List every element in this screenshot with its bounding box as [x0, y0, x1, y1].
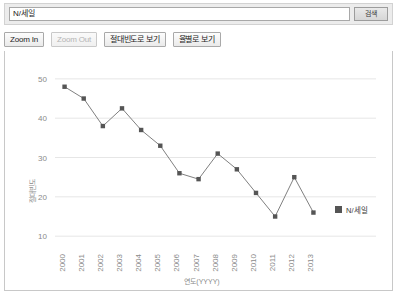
data-point-marker[interactable] [158, 144, 162, 148]
data-point-marker[interactable] [139, 128, 143, 132]
x-axis-tick-labels: 2000200120022003200420052006200720082009… [58, 253, 316, 271]
y-axis-tick-labels: 1020304050 [38, 75, 47, 241]
legend-color-swatch [335, 206, 342, 213]
y-axis-title: 절대빈도 [28, 178, 37, 203]
chart-legend: N/세일 [335, 206, 368, 215]
x-axis-tick-label: 2001 [77, 253, 86, 271]
x-axis-tick-label: 2007 [192, 253, 201, 271]
x-axis-tick-label: 2003 [115, 253, 124, 271]
chart-toolbar: Zoom In Zoom Out 절대빈도로 보기 율별로 보기 [4, 30, 393, 48]
absolute-frequency-button[interactable]: 절대빈도로 보기 [104, 32, 166, 47]
x-axis-tick-label: 2013 [306, 253, 315, 271]
chart-application-window: N/세일 검색 Zoom In Zoom Out 절대빈도로 보기 율별로 보기… [0, 0, 397, 295]
data-point-marker[interactable] [62, 85, 66, 89]
search-bar: N/세일 검색 [4, 3, 393, 25]
x-axis-tick-label: 2004 [134, 253, 143, 271]
x-axis-tick-label: 2005 [153, 253, 162, 271]
x-axis-tick-label: 2000 [58, 253, 67, 271]
search-input[interactable]: N/세일 [9, 7, 350, 21]
data-point-marker[interactable] [177, 171, 181, 175]
y-axis-tick-label: 50 [38, 75, 47, 84]
x-axis-tick-label: 2009 [230, 253, 239, 271]
data-point-marker[interactable] [120, 106, 124, 110]
data-point-marker[interactable] [273, 214, 277, 218]
data-point-marker[interactable] [216, 151, 220, 155]
chart-panel: 1020304050 20002001200220032004200520062… [4, 51, 393, 291]
legend-series-label: N/세일 [346, 206, 368, 215]
data-point-marker[interactable] [196, 177, 200, 181]
x-axis-tick-label: 2010 [249, 253, 258, 271]
rate-view-button[interactable]: 율별로 보기 [173, 32, 221, 47]
x-axis-title: 연도(YYYY) [184, 278, 219, 286]
x-axis-tick-label: 2011 [268, 253, 277, 271]
data-point-marker[interactable] [311, 210, 315, 214]
chart-gridlines [55, 79, 376, 236]
y-axis-tick-label: 20 [38, 193, 47, 202]
y-axis-tick-label: 30 [38, 154, 47, 163]
series-markers-n-sale [62, 85, 315, 219]
x-axis-tick-label: 2012 [287, 253, 296, 271]
data-point-marker[interactable] [235, 167, 239, 171]
x-axis-tick-label: 2002 [96, 253, 105, 271]
x-axis-tick-label: 2008 [211, 253, 220, 271]
search-button[interactable]: 검색 [354, 7, 388, 21]
data-point-marker[interactable] [101, 124, 105, 128]
data-point-marker[interactable] [82, 96, 86, 100]
line-chart: 1020304050 20002001200220032004200520062… [5, 51, 392, 290]
data-point-marker[interactable] [254, 191, 258, 195]
y-axis-tick-label: 10 [38, 232, 47, 241]
data-point-marker[interactable] [292, 175, 296, 179]
zoom-in-button[interactable]: Zoom In [4, 32, 44, 47]
y-axis-tick-label: 40 [38, 114, 47, 123]
zoom-out-button[interactable]: Zoom Out [51, 32, 97, 47]
x-axis-tick-label: 2006 [172, 253, 181, 271]
